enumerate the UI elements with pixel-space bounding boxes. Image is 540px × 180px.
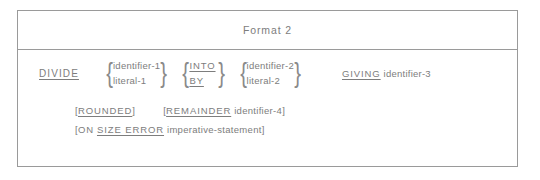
connector-group-options: INTO BY — [189, 58, 217, 88]
keyword-rounded: ROUNDED — [78, 105, 132, 116]
operand-group-1: { identifier-1 literal-1 } — [105, 58, 168, 88]
optional-clause-line-rounded-remainder: [ROUNDED] [REMAINDER identifier-4] — [75, 105, 285, 116]
bracket-close: ] — [132, 105, 135, 116]
operand-1-identifier: identifier-1 — [113, 58, 160, 73]
remainder-clause: [REMAINDER identifier-4] — [163, 105, 285, 116]
remainder-operand: identifier-4 — [234, 105, 282, 116]
figure-body: DIVIDE { identifier-1 literal-1 } { INTO… — [18, 50, 517, 168]
keyword-into: INTO — [189, 60, 215, 71]
on-size-error-clause: [ON SIZE ERROR imperative-statement] — [75, 124, 265, 135]
giving-operand: identifier-3 — [384, 68, 431, 79]
statement-main-line: DIVIDE { identifier-1 literal-1 } { INTO… — [18, 58, 517, 88]
bracket-close: ] — [262, 124, 265, 135]
keyword-size-error: SIZE ERROR — [97, 124, 164, 135]
operand-group-2: { identifier-2 literal-2 } — [239, 58, 302, 88]
on-size-error-operand: imperative-statement — [167, 124, 262, 135]
syntax-diagram-figure: Format 2 DIVIDE { identifier-1 literal-1… — [17, 10, 518, 167]
figure-title: Format 2 — [243, 24, 292, 36]
optional-clause-line-on-size-error: [ON SIZE ERROR imperative-statement] — [75, 124, 265, 135]
keyword-giving: GIVING — [342, 68, 381, 79]
figure-title-row: Format 2 — [18, 11, 517, 50]
giving-clause: GIVING identifier-3 — [342, 68, 431, 79]
operand-2-identifier: identifier-2 — [247, 58, 294, 73]
keyword-by: BY — [189, 75, 203, 86]
keyword-divide: DIVIDE — [39, 68, 79, 79]
word-on: ON — [78, 124, 94, 135]
connector-group: { INTO BY } — [181, 58, 225, 88]
operand-group-2-options: identifier-2 literal-2 — [247, 58, 294, 88]
keyword-remainder: REMAINDER — [166, 105, 231, 116]
operand-2-literal: literal-2 — [247, 73, 294, 88]
operand-group-1-options: identifier-1 literal-1 — [113, 58, 160, 88]
rounded-clause: [ROUNDED] — [75, 105, 135, 116]
operand-1-literal: literal-1 — [113, 73, 160, 88]
bracket-close: ] — [282, 105, 285, 116]
